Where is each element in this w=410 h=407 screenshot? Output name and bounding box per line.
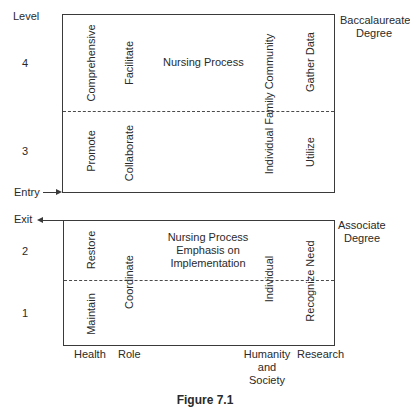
category-line2: and [242,361,292,374]
role-level4-text: Facilitate [123,41,136,85]
health-level2-text: Restore [85,231,98,270]
figure-caption: Figure 7.1 [0,393,410,407]
lower-box-title: Nursing Process Emphasis on Implementati… [148,231,268,270]
research-level4-text: Gather Data [304,32,317,92]
title-line3: Implementation [148,257,268,270]
category-line3: Society [242,374,292,387]
degree-label-line2: Degree [340,27,408,40]
humanity-lower-text: Individual [263,256,276,302]
entry-label: Entry [14,186,40,199]
level-2-label: 2 [22,245,28,258]
category-role: Role [118,348,141,361]
role-level3-text: Collaborate [123,125,136,181]
baccalaureate-box [62,14,335,193]
baccalaureate-degree-label: Baccalaureate Degree [340,14,408,40]
level-divider-lower [64,280,334,281]
degree-label-line2: Degree [338,232,386,245]
research-lower-text: Recognize Need [304,240,317,321]
health-level1-text: Maintain [85,293,98,335]
level-1-label: 1 [22,307,28,320]
health-level3-text: Promote [85,130,98,172]
category-line1: Humanity [242,348,292,361]
category-health: Health [74,348,106,361]
associate-degree-label: Associate Degree [338,219,386,245]
entry-arrow-line [43,192,57,193]
title-line2: Emphasis on [148,244,268,257]
research-level3-text: Utilize [304,137,317,167]
level-3-label: 3 [22,145,28,158]
level-divider-upper [63,111,334,112]
level-4-label: 4 [22,57,28,70]
degree-label-line1: Associate [338,219,386,232]
upper-box-title: Nursing Process [163,56,244,69]
degree-label-line1: Baccalaureate [340,14,408,27]
exit-label: Exit [14,213,32,226]
humanity-span-text: Individual Family Community [263,34,276,175]
entry-arrow-icon [56,189,62,195]
level-axis-label: Level [13,10,39,23]
exit-arrow-line [42,220,63,221]
role-span-text: Coordinate [123,255,136,309]
category-research: Research [297,348,344,361]
health-level4-text: Comprehensive [85,24,98,101]
category-humanity-society: Humanity and Society [242,348,292,387]
title-line1: Nursing Process [148,231,268,244]
